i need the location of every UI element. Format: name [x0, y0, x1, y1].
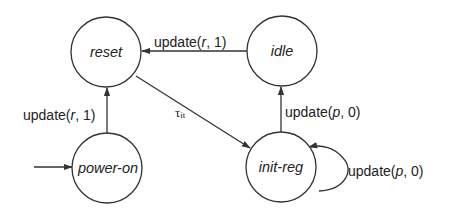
state-label-reset: reset — [90, 44, 123, 60]
state-init-reg: init-reg — [246, 132, 316, 202]
edge-label-poweron-reset: update(r, 1) — [23, 107, 95, 123]
state-label-idle: idle — [271, 43, 294, 59]
edge-label-initreg-idle: update(p, 0) — [285, 104, 361, 120]
state-label-power-on: power-on — [77, 160, 138, 176]
edge-label-tau-it: τit — [175, 105, 186, 120]
edge-initreg-self-loop: update(p, 0) — [309, 146, 424, 191]
edge-idle-to-reset: update(r, 1) — [142, 34, 247, 51]
edge-reset-to-initreg: τit — [136, 76, 250, 148]
state-reset: reset — [71, 17, 141, 87]
state-power-on: power-on — [72, 133, 142, 203]
edge-label-idle-reset: update(r, 1) — [154, 34, 226, 50]
state-idle: idle — [247, 16, 317, 86]
state-label-init-reg: init-reg — [259, 159, 303, 175]
edge-poweron-to-reset: update(r, 1) — [23, 88, 107, 133]
edge-initreg-to-idle: update(p, 0) — [281, 87, 361, 132]
edge-label-initreg-self: update(p, 0) — [348, 163, 424, 179]
state-machine-diagram: update(r, 1) update(r, 1) τit update(p, … — [0, 0, 450, 215]
